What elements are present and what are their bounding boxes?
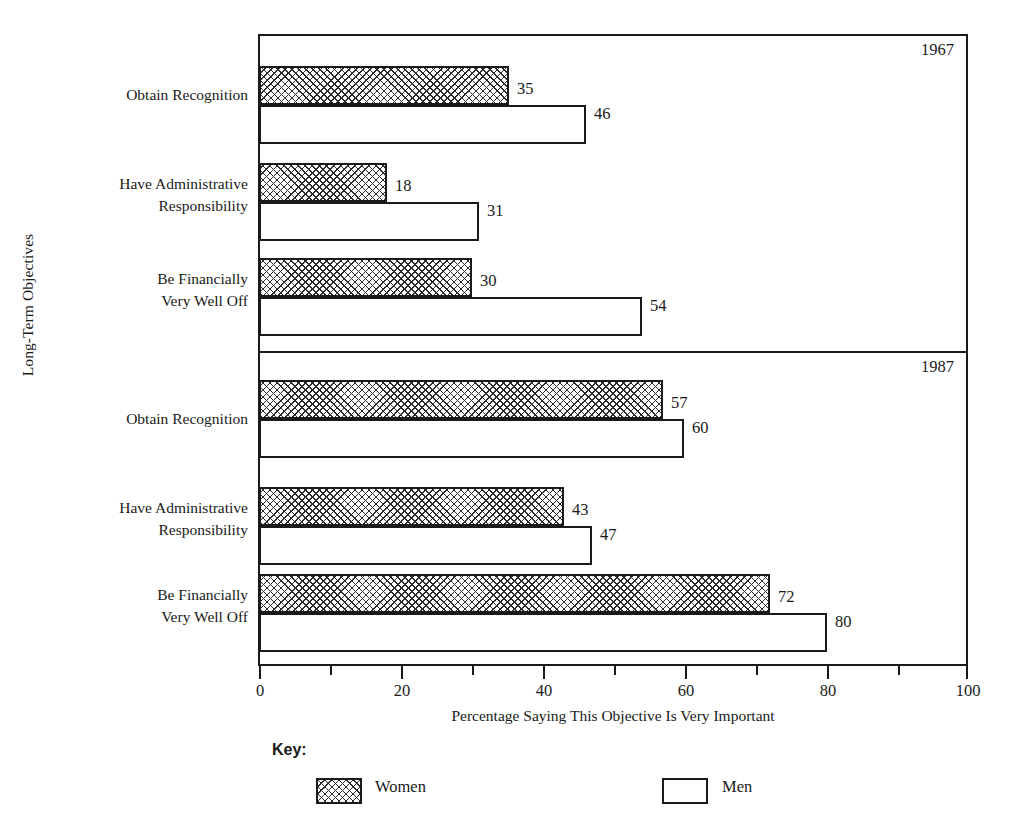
category-label-administrative-responsibility-1967: Have Administrative Responsibility [18,173,248,217]
bar-value-men-financially-well-off-1987: 80 [835,612,852,632]
bar-women-obtain-recognition-1987 [259,380,663,419]
bar-chart: Long-Term Objectives 1967 Obtain Recogni… [0,0,1014,829]
bar-women-financially-well-off-1987 [259,574,770,613]
bar-value-men-obtain-recognition-1967: 46 [594,104,611,124]
bar-value-women-administrative-responsibility-1987: 43 [572,500,589,520]
category-label-obtain-recognition-1987: Obtain Recognition [18,408,248,430]
bar-value-women-financially-well-off-1967: 30 [480,271,497,291]
legend-label-women: Women [375,777,426,797]
bar-value-men-obtain-recognition-1987: 60 [692,418,709,438]
bar-value-men-administrative-responsibility-1967: 31 [487,201,504,221]
category-label-administrative-responsibility-1987: Have Administrative Responsibility [18,497,248,541]
category-label-financially-well-off-1987: Be Financially Very Well Off [18,584,248,628]
x-tick-0 [259,666,261,679]
x-tick-40 [543,666,545,679]
x-tick-90 [898,666,900,675]
x-tick-label-80: 80 [793,681,863,701]
category-label-line: Responsibility [158,521,248,538]
bar-women-administrative-responsibility-1967 [259,163,387,202]
category-label-line: Have Administrative [119,499,248,516]
x-tick-label-60: 60 [651,681,721,701]
x-tick-label-40: 40 [509,681,579,701]
x-tick-10 [330,666,332,675]
x-tick-50 [614,666,616,675]
category-label-line: Be Financially [157,586,248,603]
x-tick-label-100: 100 [933,681,1003,701]
bar-value-women-obtain-recognition-1967: 35 [517,79,534,99]
legend-title: Key: [272,741,307,759]
bar-women-obtain-recognition-1967 [259,66,509,105]
bar-men-financially-well-off-1967 [259,297,642,336]
x-tick-label-20: 20 [367,681,437,701]
panel-divider [258,351,968,353]
legend-swatch-men [662,778,708,804]
category-label-line: Obtain Recognition [126,410,248,427]
category-label-financially-well-off-1967: Be Financially Very Well Off [18,268,248,312]
bar-value-women-obtain-recognition-1987: 57 [671,393,688,413]
x-tick-60 [685,666,687,679]
bar-men-administrative-responsibility-1987 [259,526,592,565]
category-label-line: Be Financially [157,270,248,287]
x-tick-30 [472,666,474,675]
x-axis-title: Percentage Saying This Objective Is Very… [258,707,968,725]
panel-year-1987: 1987 [864,357,954,377]
category-label-line: Very Well Off [161,608,248,625]
category-label-obtain-recognition-1967: Obtain Recognition [18,84,248,106]
x-tick-20 [401,666,403,679]
bar-women-administrative-responsibility-1987 [259,487,564,526]
bar-women-financially-well-off-1967 [259,258,472,297]
bar-value-women-administrative-responsibility-1967: 18 [395,176,412,196]
x-tick-80 [827,666,829,679]
x-tick-100 [966,666,968,679]
category-label-line: Very Well Off [161,292,248,309]
bar-men-administrative-responsibility-1967 [259,202,479,241]
x-tick-label-0: 0 [225,681,295,701]
legend-label-men: Men [722,777,752,797]
bar-men-financially-well-off-1987 [259,613,827,652]
legend-swatch-women [316,778,362,804]
category-label-line: Obtain Recognition [126,86,248,103]
bar-value-men-administrative-responsibility-1987: 47 [600,525,617,545]
bar-value-men-financially-well-off-1967: 54 [650,296,667,316]
category-label-line: Responsibility [158,197,248,214]
bar-value-women-financially-well-off-1987: 72 [778,587,795,607]
panel-year-1967: 1967 [864,40,954,60]
category-label-line: Have Administrative [119,175,248,192]
x-tick-70 [756,666,758,675]
bar-men-obtain-recognition-1987 [259,419,684,458]
bar-men-obtain-recognition-1967 [259,105,586,144]
